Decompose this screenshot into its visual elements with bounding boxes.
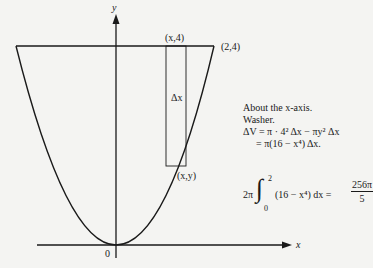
result-denominator: 5 [351, 192, 373, 204]
notes-line-simplified: = π(16 − x⁴) Δx. [243, 138, 339, 150]
integral-coefficient: 2π [243, 189, 253, 200]
point-label-xy: (x,y) [177, 171, 196, 181]
origin-label: 0 [105, 249, 110, 259]
integral-lower-bound: 0 [264, 204, 268, 213]
integrand: (16 − x⁴) dx = [275, 189, 331, 200]
notes-line-method: Washer. [243, 114, 339, 126]
notes-line-axis: About the x-axis. [243, 102, 339, 114]
y-axis-label: y [112, 3, 116, 13]
x-axis-arrow-icon [282, 242, 292, 249]
integral-result: 256π 5 [351, 179, 373, 204]
x-axis-label: x [296, 240, 300, 250]
point-label-2-4: (2,4) [221, 42, 240, 52]
solution-notes: About the x-axis. Washer. ΔV = π · 4² Δx… [243, 102, 339, 150]
result-numerator: 256π [351, 179, 373, 192]
integral-sign-icon: ∫ [256, 176, 263, 202]
integral-upper-bound: 2 [268, 174, 272, 183]
notes-line-volume: ΔV = π · 4² Δx − πy² Δx [243, 126, 339, 138]
y-axis-arrow-icon [113, 14, 120, 24]
point-label-x4: (x,4) [165, 33, 184, 43]
strip-width-label: Δx [171, 93, 182, 103]
parabola-curve [16, 46, 214, 245]
washer-strip [166, 46, 186, 166]
